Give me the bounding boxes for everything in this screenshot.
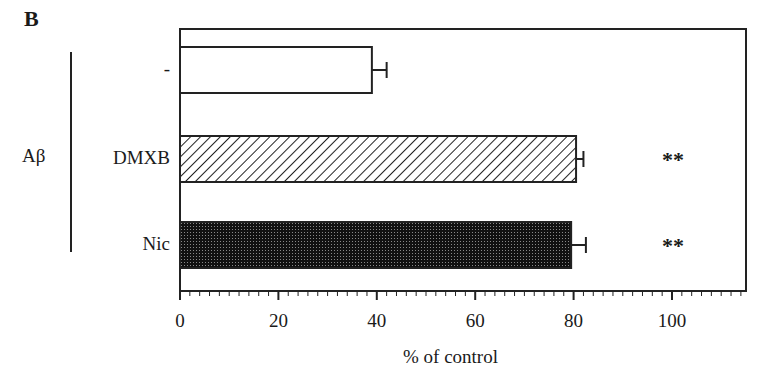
x-tick-label: 80 bbox=[554, 310, 594, 332]
bar-control bbox=[180, 47, 372, 93]
bar-nic bbox=[180, 222, 571, 268]
x-axis-label: % of control bbox=[403, 346, 498, 368]
x-tick-label: 20 bbox=[258, 310, 298, 332]
x-tick-label: 0 bbox=[160, 310, 200, 332]
x-tick-label: 100 bbox=[652, 310, 692, 332]
x-tick-label: 40 bbox=[357, 310, 397, 332]
category-label: DMXB bbox=[70, 147, 170, 169]
significance-marker: ** bbox=[662, 233, 684, 259]
category-label: - bbox=[70, 58, 170, 80]
bar-dmxb bbox=[180, 136, 576, 182]
x-tick-label: 60 bbox=[455, 310, 495, 332]
significance-marker: ** bbox=[662, 147, 684, 173]
x-axis-ticks bbox=[180, 291, 741, 300]
category-label: Nic bbox=[70, 233, 170, 255]
bars bbox=[180, 47, 586, 268]
